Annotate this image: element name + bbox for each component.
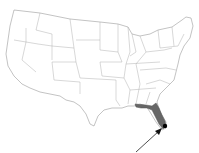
us-map bbox=[0, 0, 199, 153]
arrow-line bbox=[136, 131, 159, 152]
florida-highlight[interactable] bbox=[135, 103, 166, 129]
location-dot bbox=[163, 124, 167, 128]
